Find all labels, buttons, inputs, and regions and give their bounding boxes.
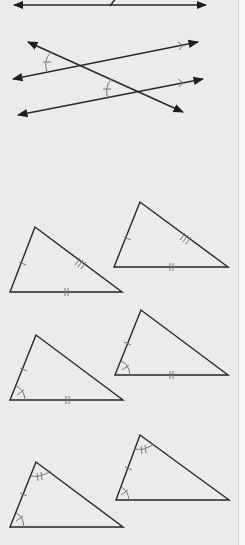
angle-tick-double xyxy=(141,445,146,454)
angle-arc-double-mark xyxy=(135,444,154,449)
angle-tick-double xyxy=(37,472,42,481)
triangle-left xyxy=(10,227,122,292)
triangle-pair-asa xyxy=(10,435,229,527)
side-tick-triple xyxy=(75,258,86,269)
triangle-right xyxy=(116,435,229,500)
top-line-figure xyxy=(14,0,206,6)
angle-arc-mark xyxy=(121,487,129,500)
triangle-left xyxy=(10,462,123,527)
triangle-pair-sss xyxy=(10,202,228,296)
geometry-diagram xyxy=(0,0,245,545)
parallel-lines-figure xyxy=(13,42,203,115)
triangle-left xyxy=(10,335,123,400)
triangle-pair-sas xyxy=(10,310,228,404)
triangle-right xyxy=(114,202,228,267)
triangle-right xyxy=(115,310,228,375)
lower-parallel-line xyxy=(18,79,203,115)
transversal-line xyxy=(28,42,183,112)
side-tick-triple xyxy=(180,233,191,244)
